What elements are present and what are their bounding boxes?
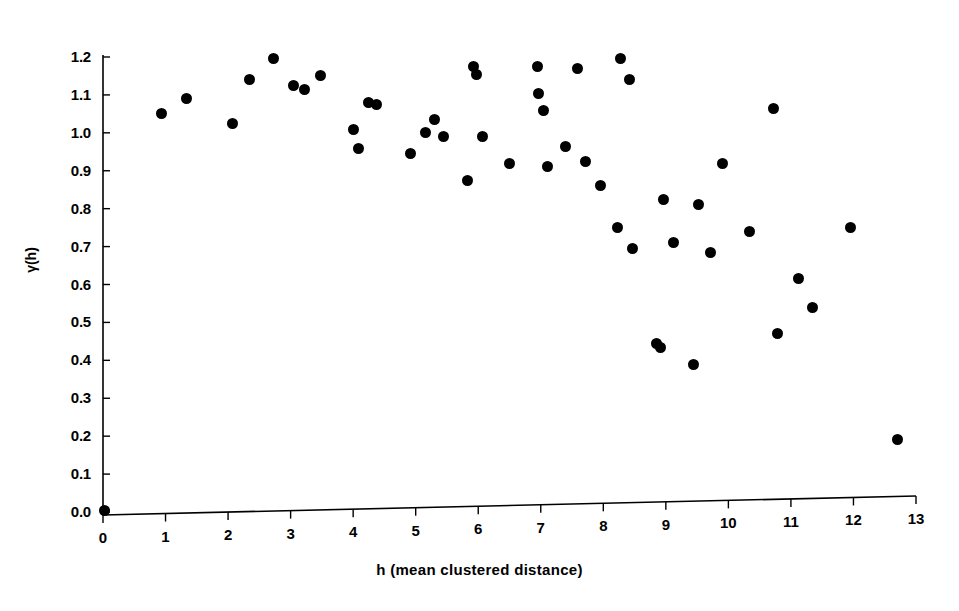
y-tick-label: 0.5 (51, 313, 91, 330)
data-point (572, 63, 583, 74)
data-point (420, 127, 431, 138)
x-tick-label: 11 (776, 513, 806, 530)
data-point (807, 302, 818, 313)
x-axis-title: h (mean clustered distance) (0, 561, 959, 578)
data-point (595, 180, 606, 191)
x-tick-label: 3 (276, 525, 306, 542)
y-tick-label: 0.2 (51, 427, 91, 444)
data-point (477, 131, 488, 142)
plot-area: 0.00.10.20.30.40.50.60.70.80.91.01.11.2 … (0, 0, 959, 611)
data-point (299, 84, 310, 95)
y-tick-label: 0.6 (51, 276, 91, 293)
data-point (181, 93, 192, 104)
data-point (768, 103, 779, 114)
x-tick-label: 5 (401, 522, 431, 539)
y-tick-label: 0.4 (51, 351, 91, 368)
y-tick-label: 1.2 (51, 48, 91, 65)
data-point (538, 105, 549, 116)
x-tick-label: 9 (651, 516, 681, 533)
data-point (533, 88, 544, 99)
data-point (542, 161, 553, 172)
data-point (156, 108, 167, 119)
data-point (655, 342, 666, 353)
data-point (560, 141, 571, 152)
data-point (315, 70, 326, 81)
data-point (471, 69, 482, 80)
data-point (532, 61, 543, 72)
data-point (772, 328, 783, 339)
x-tick-label: 8 (588, 517, 618, 534)
y-tick-label: 0.1 (51, 465, 91, 482)
x-tick-label: 2 (213, 526, 243, 543)
x-tick-label: 12 (838, 511, 868, 528)
y-tick-label: 1.0 (51, 124, 91, 141)
data-point (627, 243, 638, 254)
data-point (405, 148, 416, 159)
y-tick-label: 1.1 (51, 86, 91, 103)
data-point (438, 131, 449, 142)
data-point (244, 74, 255, 85)
data-point (227, 118, 238, 129)
data-point (717, 158, 728, 169)
data-point (612, 222, 623, 233)
y-axis-title: γ(h) (23, 247, 39, 273)
data-point (693, 199, 704, 210)
data-point (504, 158, 515, 169)
x-tick-label: 13 (901, 510, 931, 527)
data-point (615, 53, 626, 64)
data-point (288, 80, 299, 91)
data-point (845, 222, 856, 233)
data-point (658, 194, 669, 205)
y-tick-marks (103, 57, 110, 512)
y-tick-label: 0.3 (51, 389, 91, 406)
data-point (348, 124, 359, 135)
y-tick-label: 0.0 (51, 503, 91, 520)
x-tick-label: 4 (338, 523, 368, 540)
data-point (624, 74, 635, 85)
data-point (99, 505, 110, 516)
data-point (371, 99, 382, 110)
data-point (744, 226, 755, 237)
scatter-plot-figure: 0.00.10.20.30.40.50.60.70.80.91.01.11.2 … (0, 0, 959, 611)
data-point (462, 175, 473, 186)
x-tick-label: 6 (463, 520, 493, 537)
data-point (429, 114, 440, 125)
data-point (793, 273, 804, 284)
data-point (353, 143, 364, 154)
x-tick-label: 1 (151, 528, 181, 545)
x-tick-label: 10 (713, 514, 743, 531)
data-point (668, 237, 679, 248)
y-tick-label: 0.7 (51, 238, 91, 255)
data-point (688, 359, 699, 370)
x-tick-label: 0 (88, 529, 118, 546)
data-point (268, 53, 279, 64)
x-tick-label: 7 (526, 519, 556, 536)
y-tick-label: 0.9 (51, 162, 91, 179)
data-point (892, 434, 903, 445)
data-point (705, 247, 716, 258)
data-point (580, 156, 591, 167)
y-tick-label: 0.8 (51, 200, 91, 217)
